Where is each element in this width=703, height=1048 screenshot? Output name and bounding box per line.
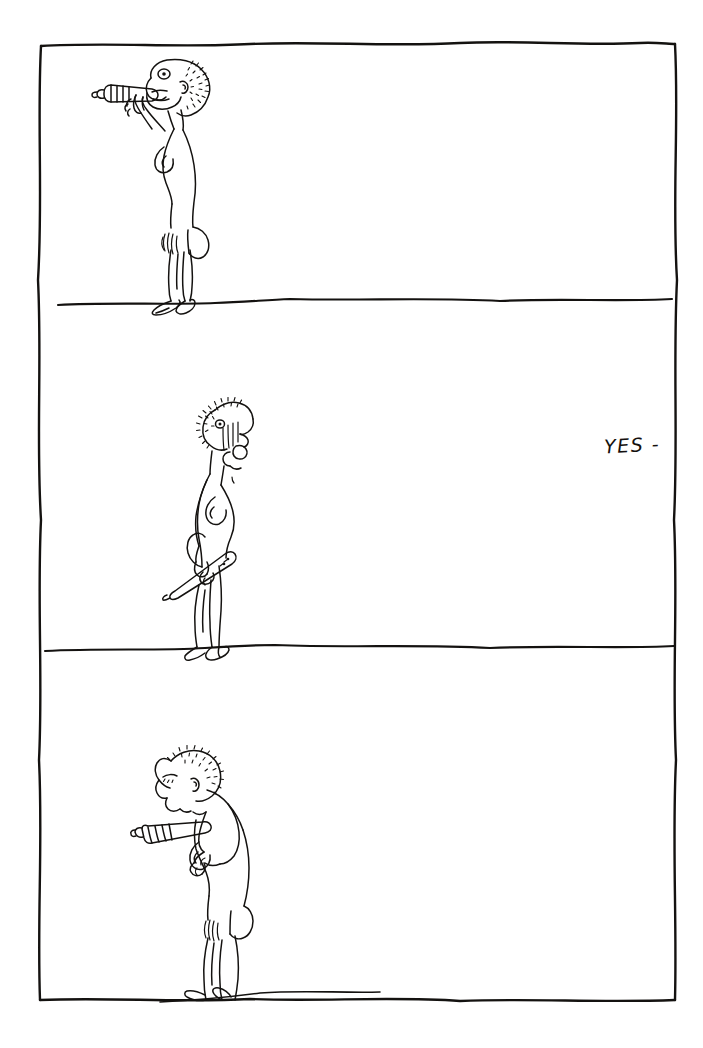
page-canvas: YES - bbox=[0, 0, 703, 1048]
yes-annotation: YES - bbox=[603, 433, 660, 458]
paper-background bbox=[0, 0, 703, 1048]
comic-artboard bbox=[0, 0, 703, 1048]
